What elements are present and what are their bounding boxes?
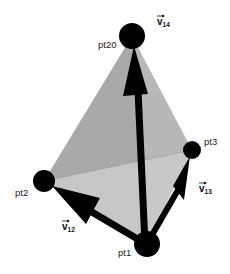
label-v13: v13 xyxy=(199,182,212,196)
label-pt2: pt2 xyxy=(15,187,28,198)
point-pt2 xyxy=(33,170,55,192)
point-pt3 xyxy=(183,141,201,159)
tetrahedron-diagram: pt20 pt3 pt2 pt1 v14 v13 v12 xyxy=(0,0,230,274)
svg-text:v12: v12 xyxy=(62,221,75,233)
label-pt3: pt3 xyxy=(204,136,217,147)
point-pt1 xyxy=(134,231,160,257)
label-pt1: pt1 xyxy=(118,247,131,258)
label-v12: v12 xyxy=(62,220,75,234)
label-v14: v14 xyxy=(157,15,170,29)
svg-text:v13: v13 xyxy=(199,183,212,195)
svg-text:v14: v14 xyxy=(157,16,170,28)
point-pt20 xyxy=(119,23,145,49)
label-pt20: pt20 xyxy=(98,39,117,50)
